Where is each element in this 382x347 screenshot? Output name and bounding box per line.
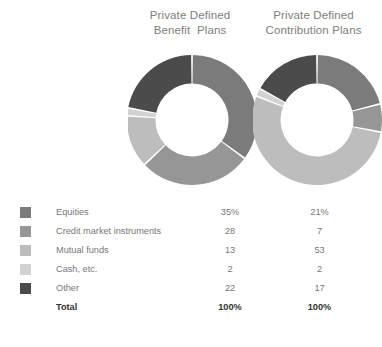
legend-label-credit-market-instruments: Credit market instruments bbox=[56, 222, 191, 241]
legend-swatch-cell bbox=[0, 241, 56, 260]
donut-slice-equities bbox=[318, 55, 380, 110]
chart-title-left-line1: Private Defined bbox=[117, 8, 263, 23]
table-row: Equities 35% 21% bbox=[0, 203, 382, 222]
legend-label-cash-etc: Cash, etc. bbox=[56, 260, 191, 279]
value-benefit-cash-etc: 2 bbox=[191, 260, 275, 279]
legend-label-equities: Equities bbox=[56, 203, 191, 222]
donut-slice-other bbox=[128, 55, 191, 113]
value-benefit-equities: 35% bbox=[191, 203, 275, 222]
value-contribution-credit-market-instruments: 7 bbox=[275, 222, 382, 241]
total-contribution: 100% bbox=[275, 298, 382, 317]
chart-titles: Private Defined Benefit Plans Private De… bbox=[0, 8, 382, 50]
donut-charts-area bbox=[0, 50, 382, 190]
legend-color-swatch-credit-market-instruments bbox=[20, 226, 31, 237]
legend-label-other: Other bbox=[56, 279, 191, 298]
pension-allocation-figure: Private Defined Benefit Plans Private De… bbox=[0, 0, 382, 347]
value-contribution-other: 17 bbox=[275, 279, 382, 298]
value-benefit-mutual-funds: 13 bbox=[191, 241, 275, 260]
legend-color-swatch-other bbox=[20, 283, 31, 294]
legend-value-table: Equities 35% 21% Credit market instrumen… bbox=[0, 203, 382, 317]
value-contribution-mutual-funds: 53 bbox=[275, 241, 382, 260]
donut-slice-equities bbox=[193, 55, 256, 157]
value-contribution-equities: 21% bbox=[275, 203, 382, 222]
value-benefit-other: 22 bbox=[191, 279, 275, 298]
legend-color-swatch-equities bbox=[20, 207, 31, 218]
legend-swatch-cell-empty bbox=[0, 298, 56, 317]
table-row: Other 22 17 bbox=[0, 279, 382, 298]
value-contribution-cash-etc: 2 bbox=[275, 260, 382, 279]
donut-chart-private-defined-contribution-plans bbox=[253, 50, 382, 190]
chart-title-right-line2: Contribution Plans bbox=[245, 23, 382, 38]
legend-color-swatch-cash-etc bbox=[20, 264, 31, 275]
table-row: Credit market instruments 28 7 bbox=[0, 222, 382, 241]
chart-title-right-line1: Private Defined bbox=[245, 8, 382, 23]
donut-chart-private-defined-benefit-plans bbox=[128, 50, 256, 190]
legend-swatch-cell bbox=[0, 279, 56, 298]
table-row-total: Total 100% 100% bbox=[0, 298, 382, 317]
legend-label-mutual-funds: Mutual funds bbox=[56, 241, 191, 260]
legend-swatch-cell bbox=[0, 203, 56, 222]
chart-title-right: Private Defined Contribution Plans bbox=[245, 8, 382, 38]
legend-color-swatch-mutual-funds bbox=[20, 245, 31, 256]
chart-title-left: Private Defined Benefit Plans bbox=[117, 8, 263, 38]
value-benefit-credit-market-instruments: 28 bbox=[191, 222, 275, 241]
total-label: Total bbox=[56, 298, 191, 317]
legend-swatch-cell bbox=[0, 260, 56, 279]
chart-title-left-line2: Benefit Plans bbox=[117, 23, 263, 38]
total-benefit: 100% bbox=[191, 298, 275, 317]
table-row: Cash, etc. 2 2 bbox=[0, 260, 382, 279]
table-row: Mutual funds 13 53 bbox=[0, 241, 382, 260]
legend-table-body: Equities 35% 21% Credit market instrumen… bbox=[0, 203, 382, 317]
legend-swatch-cell bbox=[0, 222, 56, 241]
